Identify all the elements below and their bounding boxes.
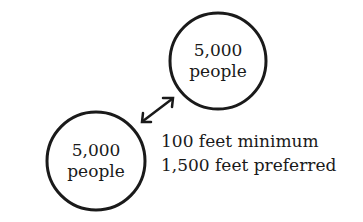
upper-node-value: 5,000: [178, 40, 258, 61]
lower-node-unit: people: [56, 161, 136, 182]
lower-node-value: 5,000: [56, 140, 136, 161]
lower-node-label: 5,000 people: [56, 140, 136, 182]
distance-preferred: 1,500 feet preferred: [161, 153, 336, 177]
diagram-canvas: [0, 0, 363, 222]
double-arrow-icon: [142, 98, 173, 122]
distance-minimum: 100 feet minimum: [161, 129, 336, 153]
upper-node-label: 5,000 people: [178, 40, 258, 82]
distance-note: 100 feet minimum 1,500 feet preferred: [161, 129, 336, 177]
upper-node-unit: people: [178, 61, 258, 82]
